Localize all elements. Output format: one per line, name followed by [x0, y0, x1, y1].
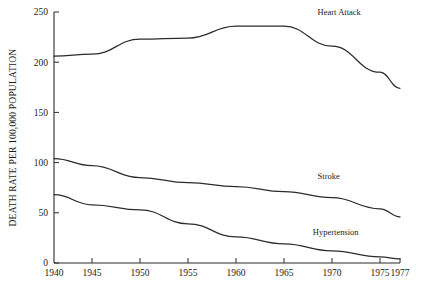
x-axis-tick-label: 1965 [275, 268, 294, 278]
y-axis-tick-label: 150 [34, 108, 49, 118]
series-lines [54, 26, 400, 259]
series-label-stroke: Stroke [318, 171, 340, 181]
y-axis-tick-label: 200 [34, 58, 49, 68]
x-axis-tick-label: 1970 [323, 268, 342, 278]
x-axis: 194019451950195519601965197019751977 [45, 258, 410, 278]
y-axis-title-text: DEATH RATE PER 100,000 POPULATION [8, 49, 18, 227]
y-axis-tick-label: 50 [39, 208, 49, 218]
series-label-heart-attack: Heart Attack [318, 7, 362, 17]
x-axis-tick-label: 1977 [391, 268, 410, 278]
x-axis-tick-label: 1960 [227, 268, 246, 278]
y-axis: 050100150200250 [34, 7, 59, 268]
y-axis-tick-label: 250 [34, 7, 49, 17]
series-label-hypertension: Hypertension [313, 227, 360, 237]
series-line-heart-attack [54, 26, 400, 88]
x-axis-tick-label: 1945 [83, 268, 102, 278]
x-axis-tick-label: 1975 [371, 268, 390, 278]
x-axis-tick-label: 1940 [45, 268, 64, 278]
series-line-stroke [54, 159, 400, 217]
y-axis-title: DEATH RATE PER 100,000 POPULATION [8, 49, 18, 227]
line-chart: 050100150200250 194019451950195519601965… [0, 0, 421, 294]
y-axis-tick-label: 100 [34, 158, 49, 168]
y-axis-tick-label: 0 [43, 258, 48, 268]
x-axis-tick-label: 1955 [179, 268, 198, 278]
x-axis-tick-label: 1950 [131, 268, 150, 278]
chart-canvas: 050100150200250 194019451950195519601965… [0, 0, 421, 294]
